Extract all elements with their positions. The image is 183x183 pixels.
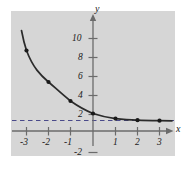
x-axis-arrowhead xyxy=(166,128,174,134)
exponential-curve xyxy=(22,31,173,121)
y-axis-arrowhead xyxy=(90,14,96,21)
y-tick-label-minus-2: -2 xyxy=(74,148,82,158)
y-axis-label: y xyxy=(95,4,99,14)
data-point xyxy=(91,111,95,115)
data-point xyxy=(24,48,28,52)
x-tick-label-minus-1: -1 xyxy=(64,138,72,148)
data-point xyxy=(135,118,139,122)
data-point xyxy=(113,117,117,121)
graph-vector-layer xyxy=(0,0,183,183)
data-point xyxy=(157,119,161,123)
y-tick-label-6: 6 xyxy=(78,72,83,82)
x-axis-label: x xyxy=(176,124,180,134)
x-tick-label-3: 3 xyxy=(157,138,162,148)
x-tick-label-minus-3: -3 xyxy=(20,138,28,148)
data-point xyxy=(46,80,50,84)
x-tick-label-1: 1 xyxy=(113,138,118,148)
exponential-function-graph-figure: 10 8 6 4 2 -2 -3 -2 -1 1 2 3 y x xyxy=(0,0,183,183)
x-tick-label-minus-2: -2 xyxy=(42,138,50,148)
y-tick-label-4: 4 xyxy=(78,91,83,101)
x-tick-label-2: 2 xyxy=(135,138,140,148)
y-tick-label-2: 2 xyxy=(78,110,83,120)
y-tick-label-8: 8 xyxy=(78,53,83,63)
data-point xyxy=(68,99,72,103)
y-tick-label-10: 10 xyxy=(72,34,82,44)
